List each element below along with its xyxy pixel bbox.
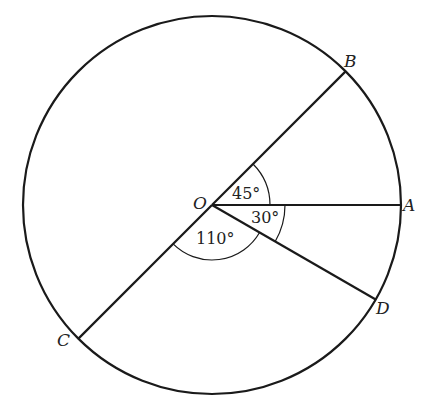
label-angle-DOC: 110° — [196, 229, 235, 248]
label-point-C: C — [57, 330, 70, 350]
label-point-B: B — [343, 51, 357, 71]
label-point-D: D — [375, 298, 390, 318]
label-angle-AOD: 30° — [251, 208, 279, 227]
circle-diagram: O A B C D 45° 30° 110° — [0, 0, 435, 408]
label-angle-AOB: 45° — [232, 184, 260, 203]
label-point-A: A — [401, 195, 415, 215]
segment-OD — [212, 205, 376, 300]
segment-OC — [78, 205, 212, 339]
label-point-O: O — [193, 193, 207, 213]
